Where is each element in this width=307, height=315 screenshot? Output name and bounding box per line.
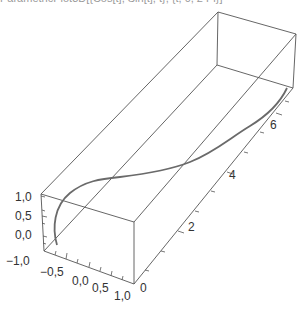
x-tick-label: 0,0 <box>72 274 89 288</box>
x-tick-label: 1,0 <box>114 289 131 303</box>
bounding-box <box>41 12 296 284</box>
z-tick-label: 0,0 <box>15 228 32 242</box>
x-tick-label: −0,5 <box>40 265 64 279</box>
y-tick-label: 4 <box>229 168 236 182</box>
z-tick-label: 1,0 <box>15 190 32 204</box>
parametric-curve <box>55 88 287 245</box>
y-tick-label: 6 <box>270 118 277 132</box>
y-tick-label: 2 <box>188 220 195 234</box>
y-axis: 0 2 4 6 <box>140 101 289 295</box>
z-tick-label: −1,0 <box>6 254 30 268</box>
z-axis: 1,0 0,5 0,0 −1,0 <box>6 190 47 268</box>
z-tick-label: 0,5 <box>15 209 32 223</box>
y-tick-label: 0 <box>140 281 147 295</box>
plot-3d: 1,0 0,5 0,0 −1,0 −0,5 0,0 0,5 1,0 0 2 4 … <box>0 0 307 315</box>
x-axis: −0,5 0,0 0,5 1,0 <box>40 251 131 303</box>
x-tick-label: 0,5 <box>92 281 109 295</box>
